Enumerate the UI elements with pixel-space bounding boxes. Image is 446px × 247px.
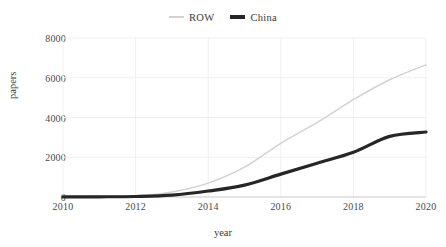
x-tick-label: 2012 xyxy=(106,201,166,212)
plot-area xyxy=(63,38,426,197)
x-tick-label: 2014 xyxy=(178,201,238,212)
x-axis-title: year xyxy=(0,227,446,238)
plot-svg xyxy=(63,38,426,197)
y-tick-label: 8000 xyxy=(6,33,66,44)
chart-legend: ROW China xyxy=(0,9,446,25)
chart-figure: ROW China 8000 6000 4000 2000 0 2010 201… xyxy=(0,0,446,247)
legend-item-row[interactable]: ROW xyxy=(169,12,214,23)
grid-lines xyxy=(63,38,426,197)
x-tick-label: 2010 xyxy=(33,201,93,212)
legend-label-china: China xyxy=(250,12,277,23)
line-swatch-icon xyxy=(230,15,245,19)
y-tick-label: 2000 xyxy=(6,152,66,163)
x-tick-label: 2020 xyxy=(396,201,446,212)
series-lines xyxy=(63,65,426,197)
y-axis-title: papers xyxy=(7,72,18,99)
y-tick-label: 4000 xyxy=(6,112,66,123)
legend-item-china[interactable]: China xyxy=(230,12,277,23)
x-tick-label: 2018 xyxy=(323,201,383,212)
x-tick-label: 2016 xyxy=(251,201,311,212)
line-swatch-icon xyxy=(169,16,184,18)
legend-label-row: ROW xyxy=(189,12,214,23)
